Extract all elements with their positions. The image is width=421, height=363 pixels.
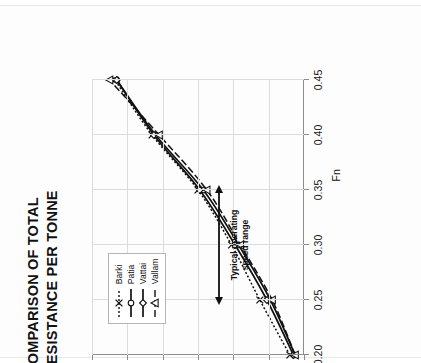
x-axis-tick	[304, 189, 309, 190]
y-axis-tick	[269, 355, 270, 360]
x-axis-tick-label: 0.40	[312, 115, 324, 155]
legend-item-vattai[interactable]: Vattai	[137, 259, 149, 319]
x-axis-tick	[304, 299, 309, 300]
y-gridline	[269, 80, 270, 355]
y-axis-tick	[163, 355, 164, 360]
y-gridline	[92, 80, 93, 355]
double-headed-arrow-icon	[212, 184, 226, 306]
legend-marker-diamond-icon	[137, 288, 149, 318]
x-axis-tick-label: 0.45	[312, 60, 324, 100]
chart-legend: BarkiPatiaVattaiVallam	[108, 253, 166, 325]
legend-item-vallam[interactable]: Vallam	[149, 259, 161, 319]
legend-label: Vallam	[149, 259, 161, 285]
legend-label: Patia	[125, 265, 137, 285]
legend-marker-x-icon	[113, 288, 125, 318]
legend-marker-circle-icon	[125, 288, 137, 318]
legend-item-patia[interactable]: Patia	[125, 259, 137, 319]
annotation-line-2: speed range	[240, 200, 250, 290]
y-axis-tick	[304, 355, 305, 360]
x-axis-tick-label: 0.25	[312, 280, 324, 320]
x-axis-tick-label: 0.20	[312, 335, 324, 363]
chart-title-line-1: COMPARISON OF TOTAL	[24, 75, 43, 363]
y-axis-tick	[198, 355, 199, 360]
y-axis-tick	[127, 355, 128, 360]
legend-item-barki[interactable]: Barki	[113, 259, 125, 319]
annotation-line-1: Typical operating	[229, 200, 239, 290]
x-axis-tick-label: 0.30	[312, 225, 324, 265]
arrow-head-left	[215, 297, 223, 305]
y-axis-tick	[233, 355, 234, 360]
data-point-marker-diamond	[139, 300, 146, 307]
legend-label: Vattai	[137, 263, 149, 284]
x-axis-tick	[304, 79, 309, 80]
arrow-head-right	[215, 185, 223, 193]
annotation-label: Typical operating speed range	[229, 200, 250, 290]
chart-title-line-2: RESISTANCE PER TONNE	[43, 75, 62, 363]
y-gridline	[198, 80, 199, 355]
rotated-figure-container: A COMPARISON OF TOTAL RESISTANCE PER TON…	[0, 58, 421, 363]
data-point-marker-circle	[128, 300, 134, 306]
page-title: COMPARISON OF TOTAL RESISTANCE PER TONNE	[24, 75, 61, 363]
figure-page: A COMPARISON OF TOTAL RESISTANCE PER TON…	[0, 0, 421, 363]
legend-marker-triangle-icon	[149, 288, 161, 318]
x-axis-title: Fn	[330, 169, 342, 181]
legend-label: Barki	[113, 265, 125, 285]
page-edge-top	[0, 0, 421, 6]
x-axis-tick-label: 0.35	[312, 170, 324, 210]
x-axis-tick	[304, 244, 309, 245]
x-axis-tick	[304, 134, 309, 135]
y-axis-tick	[92, 355, 93, 360]
